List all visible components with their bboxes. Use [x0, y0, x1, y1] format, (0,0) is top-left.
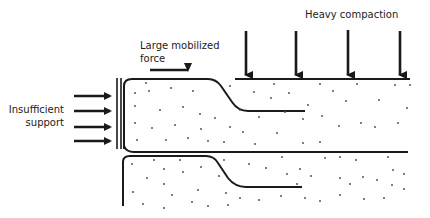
- heavy-compaction-label: Heavy compaction: [305, 9, 398, 21]
- retaining-wall-compaction-diagram: Heavy compaction Large mobilized force I…: [0, 0, 430, 218]
- insufficient-support-label-line2: support: [6, 117, 64, 129]
- mobilized-force-label-line1: Large mobilized: [140, 40, 220, 52]
- diagram-canvas: [0, 0, 430, 218]
- soil-particles-upper: [134, 82, 411, 145]
- support-arrows: [74, 96, 110, 141]
- upper-layer-boundary: [124, 79, 305, 149]
- mobilized-force-label-line2: force: [140, 53, 165, 65]
- lower-layer-boundary: [123, 156, 302, 206]
- middle-layer-line: [124, 146, 408, 152]
- retaining-wall: [117, 78, 121, 149]
- compaction-arrows: [246, 30, 400, 75]
- soil-particles-lower: [131, 156, 405, 209]
- insufficient-support-label-line1: Insufficient: [6, 104, 64, 116]
